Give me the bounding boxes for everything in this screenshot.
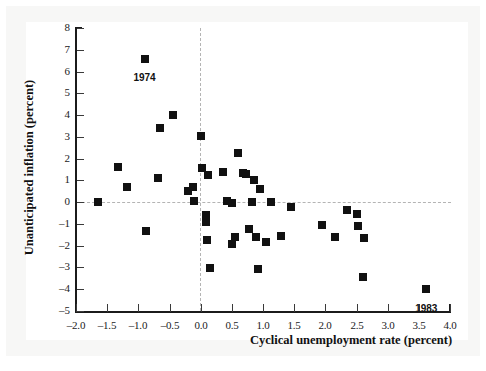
- x-tick-label: 4.0: [430, 315, 470, 333]
- y-tick-mark: [77, 93, 84, 94]
- scatter-point: [202, 218, 210, 226]
- scatter-point: [354, 222, 362, 230]
- x-axis-title: Cyclical unemployment rate (percent): [250, 333, 452, 348]
- scatter-point: [142, 227, 150, 235]
- scatter-point: [169, 111, 177, 119]
- y-tick-label: 0: [46, 195, 70, 207]
- scatter-point: [360, 234, 368, 242]
- y-tick-mark: [77, 180, 84, 181]
- y-tick-label: –1: [46, 217, 70, 229]
- x-tick-mark: [107, 304, 108, 312]
- y-tick-label-text: 7: [48, 43, 70, 55]
- scatter-point: [277, 232, 285, 240]
- scatter-point: [114, 163, 122, 171]
- y-tick-mark: [77, 224, 84, 225]
- y-tick-mark: [77, 246, 84, 247]
- scatter-point: [262, 238, 270, 246]
- scatter-point: [318, 221, 326, 229]
- x-tick-mark: [450, 304, 451, 312]
- y-tick-mark: [77, 202, 84, 203]
- scatter-point: [219, 168, 227, 176]
- y-tick-label-text: –2: [48, 239, 70, 251]
- y-tick-label: 5: [46, 86, 70, 98]
- scatter-point: [204, 171, 212, 179]
- scatter-point: [343, 206, 351, 214]
- y-tick-label-text: 5: [48, 86, 70, 98]
- scatter-point: [331, 233, 339, 241]
- scatter-point: [189, 183, 197, 191]
- scatter-point: [206, 264, 214, 272]
- x-tick-mark: [138, 304, 139, 312]
- x-tick-label-text: 4.0: [443, 319, 456, 331]
- y-tick-label: 6: [46, 65, 70, 77]
- scatter-point: [267, 198, 275, 206]
- y-tick-mark: [77, 50, 84, 51]
- scatter-point: [141, 55, 149, 63]
- scatter-point: [248, 198, 256, 206]
- scatter-point: [231, 233, 239, 241]
- scatter-point: [154, 174, 162, 182]
- y-axis-line: [75, 27, 77, 313]
- y-tick-mark: [77, 267, 84, 268]
- x-tick-mark: [294, 304, 295, 312]
- scatter-point: [190, 197, 198, 205]
- y-tick-mark: [77, 72, 84, 73]
- y-tick-label-text: –1: [48, 217, 70, 229]
- x-tick-mark: [201, 304, 202, 312]
- y-tick-label-text: 6: [48, 65, 70, 77]
- scatter-point: [252, 233, 260, 241]
- y-tick-label-text: –4: [48, 282, 70, 294]
- y-tick-label-text: 4: [48, 108, 70, 120]
- y-tick-label: –4: [46, 282, 70, 294]
- x-tick-mark: [76, 304, 77, 312]
- scatter-plot-figure: 876543210–1–2–3–4–5 –2.0–1.5–1.0–0.50.00…: [0, 0, 486, 371]
- y-tick-label: 3: [46, 130, 70, 142]
- scatter-point: [256, 185, 264, 193]
- x-tick-label-text: 3.5: [412, 319, 425, 331]
- y-tick-mark: [77, 115, 84, 116]
- x-tick-mark: [388, 304, 389, 312]
- y-axis-title: Unanticipated inflation (percent): [22, 68, 37, 268]
- scatter-point: [156, 124, 164, 132]
- y-tick-label: 1: [46, 173, 70, 185]
- x-tick-mark: [263, 304, 264, 312]
- scatter-point: [228, 199, 236, 207]
- scatter-point: [123, 183, 131, 191]
- y-tick-label-text: 8: [48, 21, 70, 33]
- x-tick-mark: [325, 304, 326, 312]
- y-tick-mark: [77, 311, 84, 312]
- x-tick-mark: [232, 304, 233, 312]
- x-tick-label-text: 1.0: [256, 319, 269, 331]
- y-tick-label: 4: [46, 108, 70, 120]
- y-tick-mark: [77, 159, 84, 160]
- scatter-point: [254, 265, 262, 273]
- x-tick-label-text: 0.5: [225, 319, 238, 331]
- scatter-point: [287, 203, 295, 211]
- y-tick-label: 7: [46, 43, 70, 55]
- x-tick-label-text: –2.0: [67, 319, 85, 331]
- y-tick-label-text: –3: [48, 260, 70, 272]
- scatter-point: [242, 170, 250, 178]
- x-tick-mark: [170, 304, 171, 312]
- y-tick-label-text: 1: [48, 173, 70, 185]
- y-tick-mark: [77, 289, 84, 290]
- plot-canvas: [26, 22, 468, 340]
- scatter-point: [197, 132, 205, 140]
- y-tick-label-text: 0: [48, 195, 70, 207]
- y-tick-label: 2: [46, 152, 70, 164]
- y-tick-label: –2: [46, 239, 70, 251]
- scatter-point: [359, 273, 367, 281]
- x-tick-label-text: 3.0: [381, 319, 394, 331]
- scatter-point: [250, 176, 258, 184]
- x-tick-label-text: 2.5: [350, 319, 363, 331]
- zero-inflation-reference-line: [77, 202, 451, 203]
- x-tick-label-text: 1.5: [287, 319, 300, 331]
- y-tick-label: –3: [46, 260, 70, 272]
- point-label-1983: 1983: [415, 303, 437, 314]
- x-tick-mark: [357, 304, 358, 312]
- x-tick-label-text: –1.5: [98, 319, 116, 331]
- scatter-point: [94, 198, 102, 206]
- scatter-point: [203, 236, 211, 244]
- y-tick-label-text: 3: [48, 130, 70, 142]
- scatter-point: [353, 210, 361, 218]
